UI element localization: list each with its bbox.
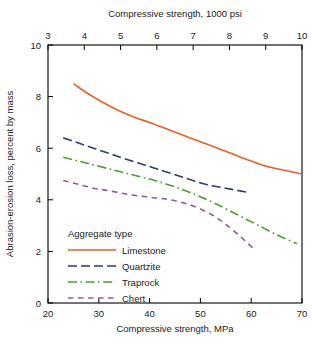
- y-tick-label: 4: [36, 194, 41, 205]
- legend-entries: LimestoneQuartziteTraprockChert: [68, 245, 166, 304]
- y-axis-ticks: [48, 45, 53, 303]
- x-tick-label-top: 3: [45, 30, 50, 41]
- x-tick-label-top: 9: [263, 30, 268, 41]
- x-tick-label-bottom: 20: [43, 308, 54, 319]
- abrasion-erosion-chart: 203040506070 345678910 0246810 Compressi…: [0, 0, 312, 346]
- x-axis-bottom-title: Compressive strength, MPa: [116, 323, 234, 334]
- curve-quartzite: [63, 138, 246, 192]
- x-tick-label-bottom: 50: [195, 308, 206, 319]
- y-axis-title: Abrasion-erosion loss, percent by mass: [4, 91, 15, 258]
- x-axis-bottom-ticks: [48, 298, 302, 303]
- x-tick-label-top: 8: [227, 30, 232, 41]
- y-tick-label: 0: [36, 298, 41, 309]
- y-tick-label: 2: [36, 246, 41, 257]
- x-tick-label-top: 6: [154, 30, 159, 41]
- x-tick-label-bottom: 60: [246, 308, 257, 319]
- x-tick-label-top: 7: [190, 30, 195, 41]
- legend-label-quartzite: Quartzite: [122, 261, 161, 272]
- x-tick-label-top: 5: [118, 30, 123, 41]
- y-axis-tick-labels: 0246810: [30, 40, 41, 309]
- y-tick-label: 8: [36, 91, 41, 102]
- chart-plot-area: [48, 45, 302, 303]
- y-tick-label: 10: [30, 40, 41, 51]
- legend-title: Aggregate type: [68, 228, 132, 239]
- curve-limestone: [73, 84, 302, 174]
- x-axis-top-title: Compressive strength, 1000 psi: [108, 8, 242, 19]
- x-axis-top-ticks: [48, 45, 302, 50]
- x-tick-label-top: 4: [82, 30, 87, 41]
- x-axis-top-tick-labels: 345678910: [45, 30, 307, 41]
- chart-legend: Aggregate type LimestoneQuartziteTraproc…: [68, 228, 166, 304]
- data-curves: [63, 84, 302, 249]
- x-tick-label-bottom: 40: [144, 308, 155, 319]
- x-tick-label-top: 10: [297, 30, 308, 41]
- y-tick-label: 6: [36, 143, 41, 154]
- x-tick-label-bottom: 30: [94, 308, 105, 319]
- legend-label-limestone: Limestone: [122, 245, 166, 256]
- x-axis-bottom-tick-labels: 203040506070: [43, 308, 308, 319]
- x-tick-label-bottom: 70: [297, 308, 308, 319]
- legend-label-chert: Chert: [122, 293, 146, 304]
- legend-label-traprock: Traprock: [122, 277, 159, 288]
